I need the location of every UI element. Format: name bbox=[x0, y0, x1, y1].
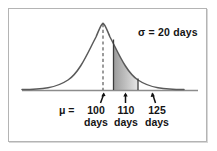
arrow-to-125 bbox=[151, 92, 156, 103]
shaded-area-110-to-125 bbox=[113, 20, 138, 90]
tick-unit-125: days bbox=[142, 117, 172, 128]
arrow-to-110 bbox=[123, 92, 127, 103]
tick-value-125: 125 bbox=[142, 105, 172, 116]
tick-label-110: 110 days bbox=[112, 105, 140, 127]
tick-value-110: 110 bbox=[112, 105, 140, 116]
tick-value-100: 100 bbox=[82, 105, 110, 116]
sigma-annotation: σ = 20 days bbox=[138, 27, 198, 38]
figure-root: σ = 20 days μ = 100 days 110 days 125 da… bbox=[0, 0, 217, 151]
tick-unit-100: days bbox=[82, 117, 110, 128]
mu-equals-label: μ = bbox=[59, 105, 74, 116]
tick-label-125: 125 days bbox=[142, 105, 172, 127]
tick-unit-110: days bbox=[112, 117, 140, 128]
tick-label-100: 100 days bbox=[82, 105, 110, 127]
normal-distribution-chart bbox=[0, 0, 217, 151]
arrow-to-100 bbox=[101, 92, 106, 103]
